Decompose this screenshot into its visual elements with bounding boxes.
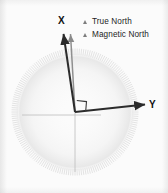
x-axis-label: X	[58, 16, 65, 26]
legend-item-magnetic-north: Magnetic North	[83, 29, 167, 40]
legend-item-true-north: True North	[83, 16, 167, 27]
declination-diagram: X Y True North Magnetic North	[0, 0, 168, 193]
legend-label-magnetic-north: Magnetic North	[92, 30, 149, 39]
legend-label-true-north: True North	[92, 17, 132, 26]
triangle-marker-icon	[83, 32, 89, 38]
legend: True North Magnetic North	[83, 16, 167, 42]
y-axis-label: Y	[149, 100, 156, 110]
triangle-marker-icon	[83, 19, 89, 25]
